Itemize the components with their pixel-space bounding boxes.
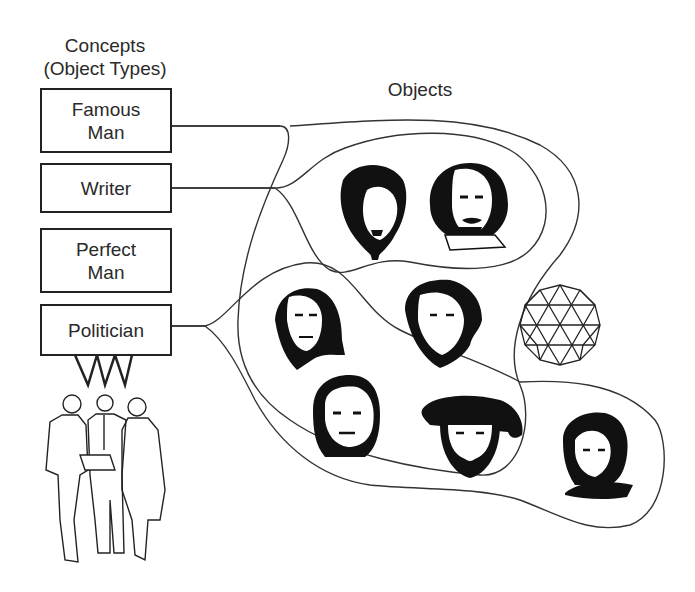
concept-label: Man bbox=[88, 261, 125, 284]
portrait-icon bbox=[563, 412, 633, 499]
people-group-icon bbox=[46, 395, 165, 562]
concept-connectors bbox=[172, 126, 280, 326]
concept-label: Famous bbox=[72, 98, 141, 121]
concept-box-perfect-man[interactable]: Perfect Man bbox=[40, 228, 172, 293]
concept-box-politician[interactable]: Politician bbox=[40, 304, 172, 356]
concept-label: Politician bbox=[68, 319, 144, 342]
geodesic-sphere-icon bbox=[520, 285, 600, 365]
concept-label: Man bbox=[88, 121, 125, 144]
concept-label: Writer bbox=[81, 177, 131, 200]
concept-label: Perfect bbox=[76, 238, 136, 261]
speech-bubble-tail bbox=[75, 355, 132, 385]
concept-box-famous-man[interactable]: Famous Man bbox=[40, 88, 172, 153]
portrait-icon bbox=[313, 375, 380, 457]
portrait-icon bbox=[341, 165, 407, 260]
portrait-icon bbox=[275, 288, 345, 370]
concept-box-writer[interactable]: Writer bbox=[40, 163, 172, 213]
portrait-icon bbox=[405, 280, 482, 368]
portrait-icon bbox=[430, 163, 508, 250]
